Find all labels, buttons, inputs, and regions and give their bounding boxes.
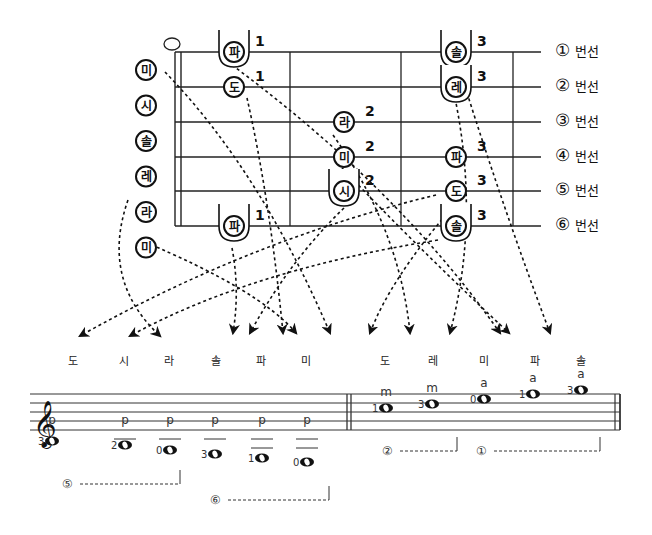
- fretted-note: 도1: [224, 68, 265, 97]
- open-note-3: 솔: [136, 131, 156, 151]
- finger-number: 2: [365, 103, 375, 119]
- open-string-marker-icon: [164, 38, 180, 50]
- svg-text:⑤: ⑤: [62, 477, 73, 491]
- svg-text:솔: 솔: [451, 220, 462, 234]
- string-label-text: 번선: [575, 215, 599, 234]
- left-note-name: 파: [256, 352, 266, 368]
- string-bracket: ②: [382, 437, 457, 458]
- staff-notes: 3p2p0p3p1p0p1m3m0a1a3a: [38, 367, 588, 468]
- fretted-note: 파3: [446, 138, 487, 167]
- string-number: ④: [555, 145, 570, 165]
- right-note-name: 솔: [576, 352, 586, 368]
- open-note-6: 미: [136, 238, 156, 258]
- open-note-1: 미: [136, 60, 156, 80]
- fingering-number: 1: [248, 453, 254, 464]
- string-label-text: 번선: [575, 111, 599, 130]
- pluck-finger: p: [258, 413, 266, 427]
- pluck-finger: p: [121, 413, 129, 427]
- string-label-3: ③번선: [555, 110, 599, 130]
- fingering-number: 0: [156, 445, 162, 456]
- staff-note: 0p: [156, 413, 181, 456]
- fingering-number: 0: [293, 457, 299, 468]
- fretboard-notes: 미시솔레라미파1도1라2미2시2파1솔3레3파3도3솔3: [136, 30, 487, 258]
- fretted-note: 레3: [441, 65, 487, 102]
- svg-text:도: 도: [229, 81, 240, 95]
- finger-number: 2: [365, 138, 375, 154]
- string-label-1: ①번선: [555, 40, 599, 60]
- open-note-4: 레: [136, 167, 156, 187]
- fretted-note: 시2: [329, 169, 375, 206]
- svg-text:미: 미: [141, 240, 152, 255]
- svg-text:②: ②: [382, 444, 393, 458]
- fretted-note: 솔3: [441, 30, 487, 67]
- fingering-number: 2: [111, 440, 117, 451]
- fingering-number: 1: [372, 403, 378, 414]
- pluck-finger: p: [303, 413, 311, 427]
- fingering-number: 3: [201, 449, 207, 460]
- staff-note: 1m: [372, 385, 393, 414]
- open-note-5: 라: [136, 202, 156, 222]
- fretted-note: 도3: [446, 172, 487, 201]
- string-bracket: ⑥: [210, 486, 329, 507]
- pluck-finger: p: [166, 413, 174, 427]
- pluck-finger: m: [426, 381, 438, 395]
- fretted-note: 미2: [334, 138, 375, 167]
- svg-text:라: 라: [141, 205, 152, 220]
- svg-text:라: 라: [339, 115, 350, 130]
- pluck-finger: m: [380, 385, 392, 399]
- string-label-text: 번선: [575, 180, 599, 199]
- finger-number: 3: [477, 68, 487, 84]
- right-note-name: 도: [380, 352, 390, 368]
- string-brackets: ⑤⑥②①: [62, 437, 600, 507]
- right-note-name: 파: [530, 352, 540, 368]
- svg-text:도: 도: [451, 185, 462, 199]
- finger-number: 3: [477, 138, 487, 154]
- right-note-name: 레: [428, 352, 438, 368]
- left-note-name: 솔: [211, 352, 221, 368]
- string-label-5: ⑤번선: [555, 179, 599, 199]
- staff-note: 2p: [111, 413, 136, 451]
- finger-number: 3: [477, 172, 487, 188]
- svg-text:시: 시: [141, 99, 152, 113]
- staff-note: 3a: [567, 367, 588, 396]
- fingering-number: 3: [567, 385, 573, 396]
- svg-text:시: 시: [339, 185, 350, 199]
- string-number: ⑤: [555, 179, 570, 199]
- svg-text:⑥: ⑥: [210, 493, 221, 507]
- staff-note: 3m: [418, 381, 439, 410]
- string-bracket: ①: [476, 437, 600, 458]
- svg-text:파: 파: [229, 219, 240, 234]
- pluck-finger: a: [529, 371, 536, 385]
- right-note-name: 미: [479, 352, 489, 368]
- svg-text:미: 미: [141, 63, 152, 78]
- string-label-6: ⑥번선: [555, 214, 599, 234]
- fingering-number: 0: [470, 394, 476, 405]
- svg-text:레: 레: [141, 169, 152, 184]
- fingering-number: 3: [38, 436, 44, 447]
- staff-note: 1a: [519, 371, 540, 400]
- left-note-name: 시: [119, 352, 129, 368]
- staff-note: 3p: [201, 413, 226, 460]
- svg-text:파: 파: [451, 150, 462, 165]
- finger-number: 2: [365, 172, 375, 188]
- pluck-finger: p: [211, 413, 219, 427]
- svg-text:레: 레: [451, 80, 462, 95]
- fingering-number: 3: [418, 399, 424, 410]
- pluck-finger: p: [48, 413, 56, 427]
- fretted-note: 파1: [219, 30, 265, 67]
- svg-text:파: 파: [229, 45, 240, 60]
- svg-text:솔: 솔: [141, 135, 152, 149]
- svg-text:①: ①: [476, 444, 487, 458]
- open-note-2: 시: [136, 96, 156, 116]
- fretted-note: 파1: [219, 204, 265, 241]
- svg-text:미: 미: [339, 150, 350, 165]
- fretted-note: 솔3: [441, 204, 487, 241]
- string-label-text: 번선: [575, 146, 599, 165]
- string-label-text: 번선: [575, 76, 599, 95]
- fretted-note: 라2: [334, 103, 375, 132]
- svg-text:솔: 솔: [451, 46, 462, 60]
- string-number: ⑥: [555, 214, 570, 234]
- string-bracket: ⑤: [62, 470, 180, 491]
- finger-number: 1: [255, 68, 265, 84]
- string-number: ③: [555, 110, 570, 130]
